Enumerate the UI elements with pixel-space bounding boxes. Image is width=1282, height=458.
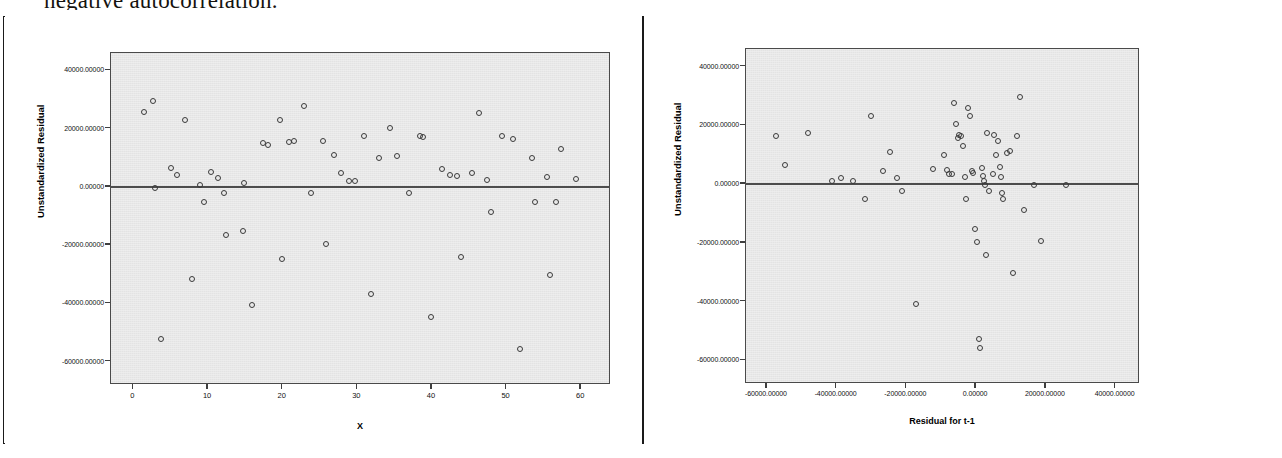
data-point xyxy=(997,164,1003,170)
y-axis-tick-label: 20000.00000 xyxy=(38,124,104,131)
data-point xyxy=(995,138,1001,144)
data-point xyxy=(544,174,550,180)
data-point xyxy=(990,171,996,177)
data-point xyxy=(376,155,382,161)
y-axis-tick-label: 40000.00000 xyxy=(38,66,104,73)
plot-area xyxy=(110,52,610,384)
x-axis-tick-label: 10 xyxy=(203,391,211,400)
x-axis-tick-label: 20000.00000 xyxy=(1025,390,1065,397)
x-axis-tick xyxy=(1114,383,1116,388)
data-point xyxy=(868,113,874,119)
data-point xyxy=(189,276,195,282)
data-point xyxy=(368,291,374,297)
x-axis-tick-label: 0 xyxy=(130,391,134,400)
x-axis-tick-label: 0.00000 xyxy=(963,390,988,397)
zero-reference-line xyxy=(745,183,1139,185)
data-point xyxy=(141,109,147,115)
y-axis-tick xyxy=(105,69,110,71)
data-point xyxy=(454,173,460,179)
x-axis-tick xyxy=(835,383,837,388)
data-point xyxy=(1063,182,1069,188)
data-point xyxy=(208,169,214,175)
data-point xyxy=(201,199,207,205)
x-axis-tick-label: 50 xyxy=(501,391,509,400)
x-axis-tick xyxy=(1044,383,1046,388)
y-axis-tick xyxy=(105,360,110,362)
data-point xyxy=(974,239,980,245)
y-axis-tick xyxy=(740,300,745,302)
data-point xyxy=(291,138,297,144)
data-point xyxy=(352,178,358,184)
y-axis-tick-label: -20000.00000 xyxy=(38,241,104,248)
data-point xyxy=(469,170,475,176)
scatter-chart-right: 40000.0000020000.000000.00000-20000.0000… xyxy=(644,16,1275,444)
data-point xyxy=(320,138,326,144)
x-axis-tick xyxy=(765,383,767,388)
x-axis-title: X xyxy=(357,421,363,431)
data-point xyxy=(152,185,158,191)
data-point xyxy=(887,149,893,155)
data-point xyxy=(962,174,968,180)
data-point xyxy=(972,226,978,232)
x-axis-tick-label: -60000.00000 xyxy=(745,390,787,397)
x-axis-tick xyxy=(505,384,507,389)
x-axis-tick-label: 30 xyxy=(352,391,360,400)
data-point xyxy=(529,155,535,161)
data-point xyxy=(447,172,453,178)
y-axis-tick xyxy=(105,302,110,304)
data-point xyxy=(991,132,997,138)
x-axis-tick-label: 20 xyxy=(278,391,286,400)
data-point xyxy=(197,182,203,188)
data-point xyxy=(983,252,989,258)
y-axis-tick-label: -40000.00000 xyxy=(38,299,104,306)
y-axis-tick xyxy=(740,65,745,67)
y-axis-tick xyxy=(740,359,745,361)
data-point xyxy=(899,188,905,194)
y-axis-title: Unstandardized Residual xyxy=(35,105,46,219)
x-axis-tick-label: 40 xyxy=(427,391,435,400)
x-axis-tick xyxy=(430,384,432,389)
scatter-chart-left: 40000.0000020000.000000.00000-20000.0000… xyxy=(5,16,642,444)
x-axis-title: Residual for t-1 xyxy=(909,416,975,426)
data-point xyxy=(428,314,434,320)
y-axis-tick-label: -60000.00000 xyxy=(38,357,104,364)
x-axis-tick xyxy=(206,384,208,389)
zero-reference-line xyxy=(110,186,610,188)
x-axis-tick xyxy=(905,383,907,388)
x-axis-tick xyxy=(132,384,134,389)
data-point xyxy=(976,336,982,342)
y-axis-tick xyxy=(105,243,110,245)
y-axis-tick xyxy=(740,124,745,126)
y-axis-tick-label: 0.00000 xyxy=(38,182,104,189)
data-point xyxy=(829,178,835,184)
x-axis-tick-label: -40000.00000 xyxy=(815,390,857,397)
data-point xyxy=(986,188,992,194)
x-axis-tick xyxy=(356,384,358,389)
data-point xyxy=(1007,148,1013,154)
y-axis-tick xyxy=(105,127,110,129)
data-point xyxy=(174,172,180,178)
y-axis-title: Unstandardized Residual xyxy=(672,103,683,217)
y-axis-tick-label: -60000.00000 xyxy=(673,356,739,363)
y-axis-tick-label: -20000.00000 xyxy=(673,238,739,245)
data-point xyxy=(1021,207,1027,213)
data-point xyxy=(279,256,285,262)
data-point xyxy=(277,117,283,123)
x-axis-tick-label: 40000.00000 xyxy=(1095,390,1135,397)
x-axis-tick-label: 60 xyxy=(576,391,584,400)
plot-area xyxy=(745,48,1139,383)
x-axis-tick xyxy=(974,383,976,388)
data-point xyxy=(488,209,494,215)
data-point xyxy=(484,177,490,183)
data-point xyxy=(240,228,246,234)
data-point xyxy=(331,152,337,158)
data-point xyxy=(346,178,352,184)
x-axis-tick xyxy=(281,384,283,389)
x-axis-tick-label: -20000.00000 xyxy=(884,390,926,397)
data-point xyxy=(782,162,788,168)
y-axis-tick-label: 40000.00000 xyxy=(673,62,739,69)
data-point xyxy=(913,301,919,307)
data-point xyxy=(158,336,164,342)
y-axis-tick-label: -40000.00000 xyxy=(673,297,739,304)
data-point xyxy=(406,190,412,196)
